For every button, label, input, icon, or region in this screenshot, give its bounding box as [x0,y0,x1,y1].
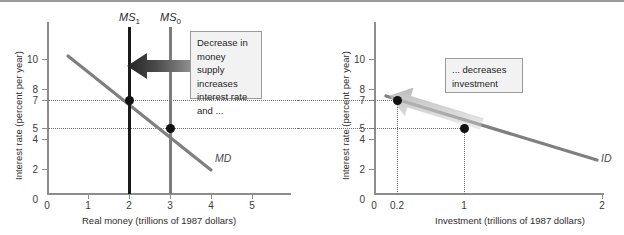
ms1-label-subscript: 1 [136,17,140,26]
left-callout-line-3: increases [197,77,255,91]
ms1-supply-line [128,27,131,194]
left-x-axis-title: Real money (trillions of 1987 dollars) [82,215,236,226]
left-ytick-4 [42,139,47,140]
left-xtick-5 [252,194,253,199]
right-xticklabel-0p2: 0.2 [385,200,409,211]
equilibrium-dot-initial [166,124,175,133]
left-ytick-2 [42,169,47,170]
right-ytick-2 [369,169,374,170]
left-callout-line-4: interest rate [197,90,255,104]
right-ytick-10 [369,59,374,60]
left-y-axis-title: Interest rate (percent per year) [13,51,24,180]
left-ytick-8 [42,89,47,90]
left-xtick-1 [88,194,89,199]
left-xticklabel-5: 5 [242,200,262,211]
left-ytick-7 [42,100,47,101]
left-ytick-5 [42,128,47,129]
right-guide-rate-7 [298,100,398,101]
md-label: MD [215,152,231,164]
ms0-label: MS0 [160,11,181,26]
right-callout-line-1: ... decreases [452,63,516,77]
economics-figure: 0 2 4 5 7 8 10 0 1 2 3 4 5 Interest rate… [0,0,624,235]
right-callout-box: ... decreases investment [445,58,523,93]
panel-money-market: 0 2 4 5 7 8 10 0 1 2 3 4 5 Interest rate… [0,0,312,235]
right-ytick-8 [369,89,374,90]
ms1-label: MS1 [119,11,140,26]
ms0-label-text: MS [160,11,177,23]
equilibrium-dot-new [125,96,134,105]
right-x-axis [374,193,604,195]
left-xtick-4 [211,194,212,199]
right-ytick-4 [369,139,374,140]
right-guide-investment-0p2 [397,100,398,194]
left-xticklabel-3: 3 [160,200,180,211]
left-guide-rate-5 [48,128,312,129]
left-xticklabel-4: 4 [201,200,221,211]
left-y-axis [47,22,49,194]
investment-movement-arrow [384,88,488,132]
investment-dot-initial [460,124,469,133]
left-xtick-2 [129,194,130,199]
right-yticklabel-0: 0 [343,194,365,205]
panel-investment-demand: 0 2 4 5 7 8 10 0 0.2 1 2 Interest rate (… [312,0,624,235]
left-callout-line-2: money supply [197,50,255,77]
investment-dot-new [393,96,402,105]
right-x-axis-title: Investment (trillions of 1987 dollars) [435,215,585,226]
left-callout-line-1: Decrease in [197,36,255,50]
left-yticklabel-0: 0 [16,194,38,205]
right-y-axis-title: Interest rate (percent per year) [340,51,351,180]
right-callout-line-2: investment [452,77,516,91]
right-xticklabel-1: 1 [454,200,474,211]
right-guide-rate-5 [298,128,464,129]
right-xticklabel-2: 2 [592,200,612,211]
left-xticklabel-1: 1 [78,200,98,211]
left-ytick-10 [42,59,47,60]
right-guide-investment-1 [464,128,465,194]
ms0-supply-line [169,27,172,194]
left-guide-rate-7 [48,100,312,101]
left-xticklabel-2: 2 [119,200,139,211]
ms0-label-subscript: 0 [177,17,181,26]
id-label: ID [601,152,612,164]
right-xticklabel-0: 0 [364,200,384,211]
left-xticklabel-0: 0 [37,200,57,211]
left-xtick-3 [170,194,171,199]
ms1-label-text: MS [119,11,136,23]
money-supply-shift-arrow [125,52,193,80]
right-xtick-2 [602,194,603,199]
right-y-axis [374,22,376,194]
left-callout-box: Decrease in money supply increases inter… [190,31,262,99]
left-callout-line-5: and ... [197,104,255,118]
